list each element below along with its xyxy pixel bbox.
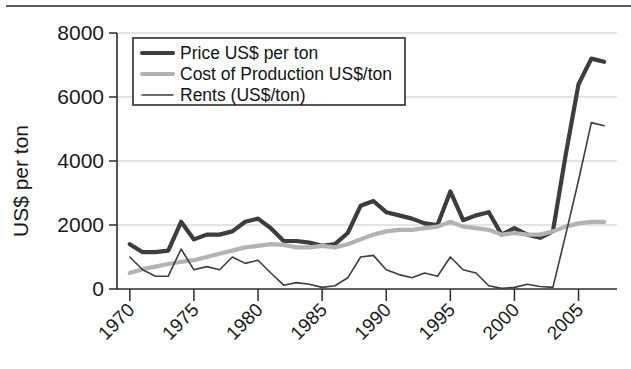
x-axis-tick-label: 1975 [158,299,203,344]
chart-legend: Price US$ per tonCost of Production US$/… [133,38,405,105]
legend-label: Cost of Production US$/ton [180,64,392,84]
x-axis-tick-label: 1990 [350,299,395,344]
x-axis-tick-labels: 19701975198019851990199520002005 [94,299,587,344]
x-axis-tick-label: 1995 [414,299,459,344]
x-axis-tick-label: 1970 [94,299,139,344]
y-axis-title: US$ per ton [9,125,32,237]
y-axis-tick-label: 2000 [57,213,104,236]
x-axis-ticks-group [130,289,579,301]
line-chart-canvas: 02000400060008000 1970197519801985199019… [0,0,631,369]
y-axis-tick-labels: 02000400060008000 [57,21,104,300]
x-axis-tick-label: 1985 [286,299,331,344]
y-axis-ticks-group [109,33,117,289]
x-axis-tick-label: 1980 [222,299,267,344]
y-axis-tick-label: 6000 [57,85,104,108]
x-axis-tick-label: 2005 [543,299,588,344]
y-axis-tick-label: 0 [92,277,104,300]
chart-figure: 02000400060008000 1970197519801985199019… [0,0,631,369]
x-axis-tick-label: 2000 [479,299,524,344]
y-axis-tick-label: 8000 [57,21,104,44]
legend-label: Price US$ per ton [180,43,318,63]
series-line [130,222,604,273]
y-axis-tick-label: 4000 [57,149,104,172]
legend-label: Rents (US$/ton) [180,85,305,105]
